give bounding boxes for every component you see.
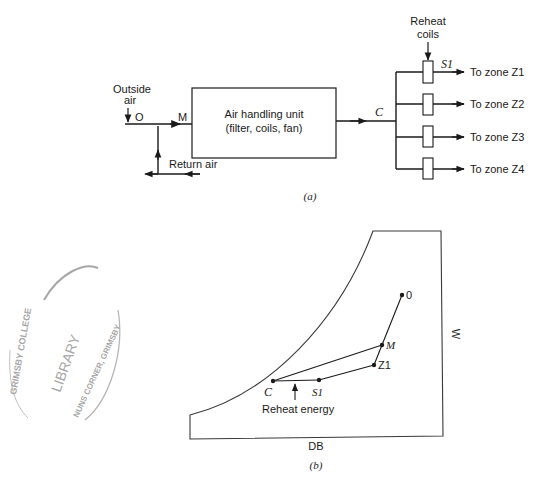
mix-to-coil-line (273, 345, 382, 381)
zone-branch-2: To zone Z2 (396, 94, 524, 115)
reheat-coils-label-1: Reheat (410, 15, 445, 27)
zone-label: To zone Z3 (470, 131, 524, 143)
state-point-s1 (317, 378, 321, 382)
zone-label: To zone Z1 (470, 66, 524, 78)
zone-label: To zone Z2 (470, 98, 524, 110)
reheat-coil-3 (423, 126, 433, 147)
y-axis-label: W (450, 329, 462, 340)
reheat-coil-2 (423, 94, 433, 115)
library-stamp: GRIMSBY COLLEGE LIBRARY NUNS CORNER, GRI… (8, 266, 123, 420)
figure-b-psychrometric-chart: DB W 0 M Z1 C S1 Reheat energy (b) (190, 231, 462, 472)
state-point-c (271, 379, 275, 383)
point-s1-label: S1 (441, 57, 453, 71)
state-label-o: 0 (406, 289, 412, 301)
figure-a-caption: (a) (304, 190, 317, 203)
reheat-coil-1 (423, 61, 433, 83)
point-m-label: M (178, 111, 187, 123)
return-air-label: Return air (169, 158, 218, 170)
zone-label: To zone Z4 (470, 163, 524, 175)
reheat-coils-label-2: coils (417, 28, 440, 40)
figure-a-schematic: Outside air O M Return air Air handling … (113, 15, 524, 203)
ahu-label-1: Air handling unit (225, 108, 304, 120)
zone-branch-1: To zone Z1 (396, 61, 524, 83)
stamp-ring-top (44, 266, 98, 300)
point-c-label: C (375, 105, 384, 119)
reheat-energy-label: Reheat energy (262, 403, 335, 415)
state-point-z1 (372, 363, 376, 367)
x-axis-label: DB (308, 440, 323, 452)
reheat-line (273, 380, 319, 381)
state-point-m (380, 343, 384, 347)
hvac-reheat-diagram: Outside air O M Return air Air handling … (0, 0, 535, 482)
stamp-top-text: GRIMSBY COLLEGE (8, 307, 33, 395)
state-label-m: M (385, 339, 396, 351)
outside-to-zone-line (374, 295, 402, 365)
point-o-label: O (135, 111, 144, 123)
figure-b-caption: (b) (310, 459, 323, 472)
zone-branch-3: To zone Z3 (396, 126, 524, 147)
state-point-o (400, 293, 404, 297)
stamp-center-text: LIBRARY (48, 332, 84, 394)
supply-to-zone-line (319, 365, 374, 380)
ahu-label-2: (filter, coils, fan) (225, 122, 302, 134)
state-label-z1: Z1 (378, 359, 391, 371)
state-label-c: C (264, 385, 273, 399)
reheat-coil-4 (423, 158, 433, 179)
zone-branch-4: To zone Z4 (396, 158, 524, 179)
outside-air-label-2: air (124, 94, 137, 106)
state-label-s1: S1 (312, 386, 323, 398)
